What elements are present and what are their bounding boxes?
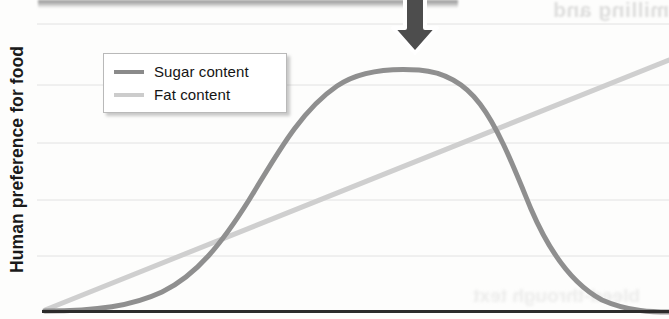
- y-axis-label: Human preference for food: [8, 46, 29, 273]
- plot-area: Sugar content Fat content: [37, 0, 669, 319]
- legend-label-fat: Fat content: [154, 86, 230, 103]
- legend-swatch-icon-sugar: [114, 70, 144, 74]
- legend-swatch-icon-fat: [114, 93, 144, 97]
- legend-item-sugar-content: Sugar content: [114, 60, 286, 83]
- legend-label-sugar: Sugar content: [154, 63, 249, 80]
- arrow-down-shape: [393, 0, 437, 53]
- y-axis-label-container: Human preference for food: [0, 0, 36, 319]
- chart-canvas: [37, 0, 669, 319]
- chart-legend: Sugar content Fat content: [103, 53, 287, 113]
- arrow-down-icon: [385, 0, 445, 56]
- legend-item-fat-content: Fat content: [114, 83, 286, 106]
- chart-figure: milling and bleed-through text Human pre…: [0, 0, 669, 319]
